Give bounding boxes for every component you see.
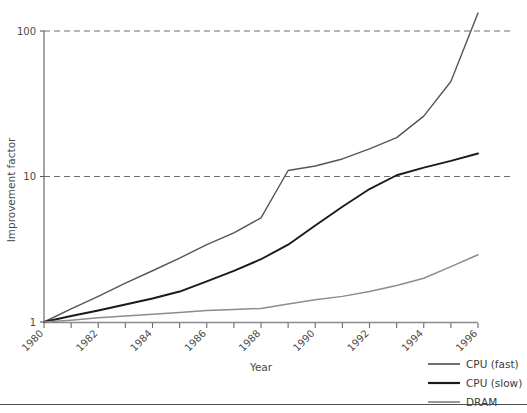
series-line (44, 255, 478, 322)
footer-rule (0, 404, 527, 405)
x-tick-label: 1996 (454, 328, 480, 354)
chart-figure: 198019821984198619881990199219941996 110… (0, 0, 527, 413)
y-tick-label: 10 (23, 171, 36, 182)
legend-label: DRAM (466, 396, 497, 408)
y-tick-label: 1 (30, 317, 36, 328)
series-lines (44, 13, 478, 322)
series-line (44, 13, 478, 322)
series-line (44, 153, 478, 322)
x-tick-label: 1988 (237, 328, 263, 354)
line-chart: 198019821984198619881990199219941996 110… (0, 0, 527, 413)
legend-label: CPU (fast) (466, 358, 519, 370)
x-tick-label: 1990 (291, 328, 317, 354)
x-tick-label: 1992 (345, 328, 371, 354)
gridlines (44, 31, 512, 177)
chart-legend: CPU (fast)CPU (slow)DRAM (428, 358, 522, 408)
x-axis-tick-labels: 198019821984198619881990199219941996 (20, 328, 480, 354)
y-tick-label: 100 (17, 26, 36, 37)
x-tick-label: 1994 (399, 328, 425, 354)
x-tick-label: 1982 (74, 328, 100, 354)
legend-label: CPU (slow) (466, 377, 522, 389)
x-axis-title: Year (249, 361, 273, 373)
x-tick-label: 1986 (182, 328, 208, 354)
y-axis-title: Improvement factor (5, 137, 17, 242)
x-axis-ticks (44, 323, 478, 328)
y-axis-tick-labels: 110100 (17, 26, 36, 328)
y-axis-ticks (40, 31, 44, 322)
x-tick-label: 1980 (20, 328, 46, 354)
x-tick-label: 1984 (128, 328, 154, 354)
